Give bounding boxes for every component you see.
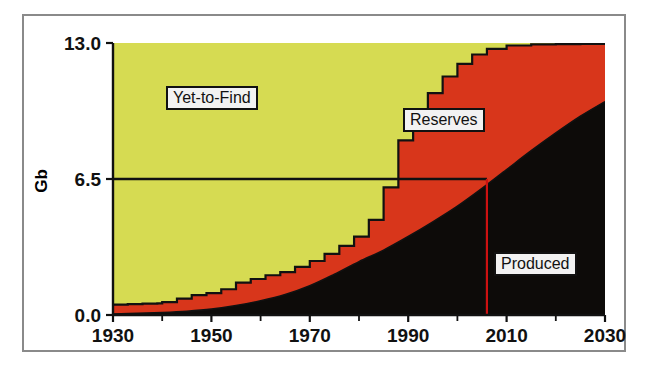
x-tick-label: 1950 <box>190 325 232 346</box>
y-tick-label: 13.0 <box>64 33 101 54</box>
chart-plot: 193019501970199020102030 0.06.513.0 Gb <box>0 0 648 368</box>
y-axis-tick-labels: 0.06.513.0 <box>64 33 101 326</box>
x-tick-label: 1970 <box>289 325 331 346</box>
annotation-produced: Produced <box>494 252 577 276</box>
x-axis-tick-labels: 193019501970199020102030 <box>92 325 626 346</box>
y-axis-title: Gb <box>32 169 51 193</box>
y-tick-label: 6.5 <box>75 169 102 190</box>
y-tick-label: 0.0 <box>75 305 101 326</box>
figure-canvas: 193019501970199020102030 0.06.513.0 Gb Y… <box>0 0 648 368</box>
x-tick-label: 1990 <box>387 325 429 346</box>
x-tick-label: 2010 <box>485 325 527 346</box>
annotation-yet-to-find: Yet-to-Find <box>166 86 258 110</box>
annotation-reserves: Reserves <box>403 108 485 132</box>
x-tick-label: 2030 <box>584 325 626 346</box>
x-tick-label: 1930 <box>92 325 134 346</box>
